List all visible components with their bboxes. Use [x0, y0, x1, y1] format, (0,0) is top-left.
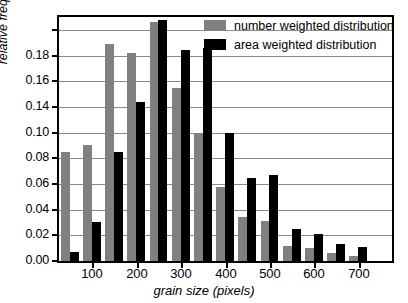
bar	[150, 22, 159, 261]
bar	[358, 247, 367, 261]
bar	[269, 175, 278, 261]
y-tick-label: 0.10	[8, 125, 49, 139]
x-tick-label: 500	[248, 266, 292, 281]
bar	[216, 187, 225, 261]
bar	[327, 253, 336, 261]
bar	[292, 229, 301, 261]
x-tick-label: 600	[292, 266, 336, 281]
y-tick-label: 0.02	[8, 227, 49, 241]
x-tick-label: 700	[337, 266, 381, 281]
y-tick-label: 0.16	[8, 73, 49, 87]
y-tick-label: 0.14	[8, 99, 49, 113]
y-tick-label: 0.18	[8, 48, 49, 62]
legend-label: number weighted distribution	[234, 19, 394, 33]
chart-figure: relative frequency 0.000.020.040.060.080…	[0, 0, 408, 303]
bar	[92, 222, 101, 261]
x-tick-label: 300	[159, 266, 203, 281]
x-tick-label: 400	[204, 266, 248, 281]
x-axis-label: grain size (pixels)	[0, 283, 408, 298]
bar	[225, 133, 234, 261]
bar	[194, 133, 203, 261]
bar	[105, 44, 114, 261]
bar	[305, 248, 314, 261]
legend-item: area weighted distribution	[204, 36, 394, 53]
x-tick-label: 200	[115, 266, 159, 281]
bar	[61, 152, 70, 261]
y-tick-label: 0.04	[8, 202, 49, 216]
bar	[172, 88, 181, 261]
bar	[349, 256, 358, 261]
y-tick-label: 0.06	[8, 176, 49, 190]
bar	[314, 234, 323, 261]
bar	[158, 20, 167, 261]
bar	[114, 152, 123, 261]
bar	[283, 246, 292, 261]
legend-item: number weighted distribution	[204, 17, 394, 34]
legend-label: area weighted distribution	[234, 38, 376, 52]
bar	[261, 221, 270, 261]
bar	[136, 102, 145, 261]
legend-swatch	[204, 20, 226, 31]
y-tick-label: 0.08	[8, 150, 49, 164]
legend-swatch	[204, 39, 226, 50]
bar	[203, 48, 212, 261]
bar	[70, 252, 79, 261]
x-tick-label: 100	[70, 266, 114, 281]
chart-legend: number weighted distributionarea weighte…	[204, 17, 394, 55]
bar	[83, 145, 92, 261]
bar	[127, 53, 136, 261]
bar	[247, 178, 256, 261]
bar	[238, 217, 247, 261]
bar	[181, 50, 190, 261]
bar	[336, 244, 345, 261]
y-tick-label: 0.00	[8, 253, 49, 267]
